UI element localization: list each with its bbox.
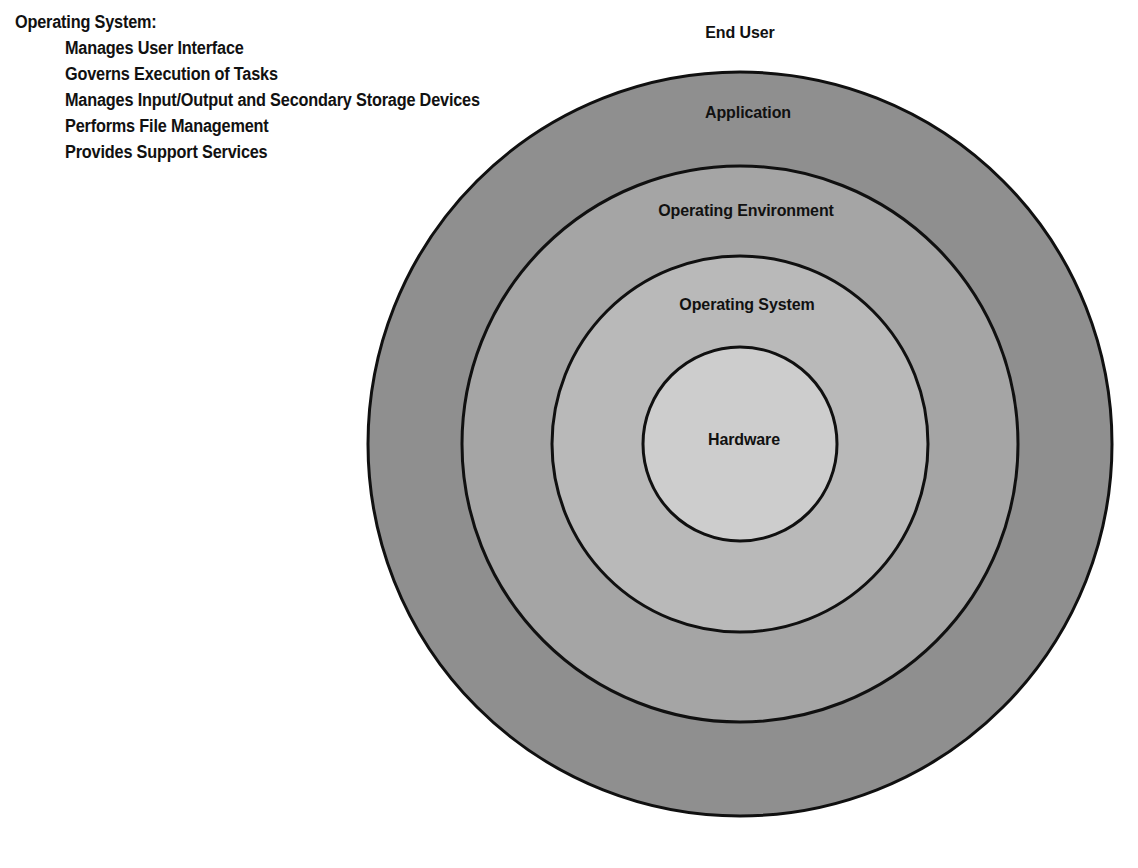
concentric-layers-diagram: End User Application Operating Environme…	[0, 0, 1138, 868]
label-hardware: Hardware	[708, 430, 780, 450]
label-application: Application	[705, 103, 791, 123]
label-operating-system: Operating System	[679, 295, 814, 315]
label-operating-environment: Operating Environment	[658, 201, 834, 221]
diagram-canvas	[0, 0, 1138, 868]
label-end-user: End User	[705, 23, 774, 43]
